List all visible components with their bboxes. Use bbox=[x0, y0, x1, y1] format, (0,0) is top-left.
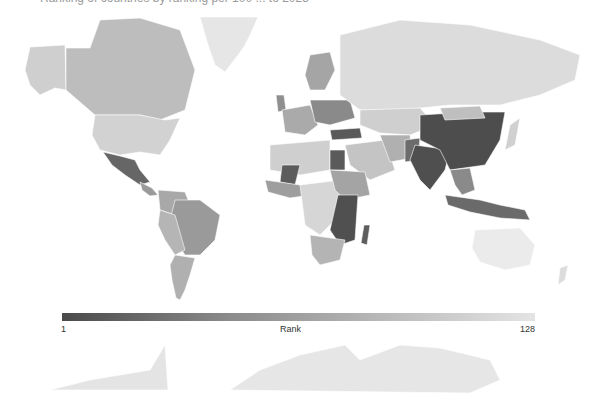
region-russia bbox=[340, 20, 580, 110]
colorbar-min-label: 1 bbox=[61, 324, 66, 334]
region-usa bbox=[92, 115, 180, 155]
region-alaska bbox=[25, 45, 66, 95]
region-egypt bbox=[330, 150, 345, 170]
region-new-zealand bbox=[558, 265, 568, 285]
region-australia bbox=[472, 228, 535, 270]
region-mali bbox=[280, 165, 300, 185]
region-mongolia bbox=[440, 106, 485, 120]
region-southern-africa bbox=[310, 235, 345, 265]
colorbar bbox=[62, 313, 535, 321]
region-southeast-asia bbox=[450, 168, 475, 195]
region-scandinavia bbox=[305, 52, 335, 90]
region-turkey bbox=[330, 128, 362, 140]
colorbar-max-label: 128 bbox=[520, 324, 535, 334]
region-canada bbox=[66, 18, 195, 120]
region-eastern-europe bbox=[310, 100, 355, 125]
region-japan bbox=[505, 118, 520, 150]
region-central-america bbox=[140, 182, 158, 196]
world-map bbox=[0, 0, 592, 403]
region-madagascar bbox=[361, 225, 370, 245]
region-antarctica-east bbox=[230, 345, 500, 393]
region-argentina-chile bbox=[170, 255, 195, 300]
region-antarctica-west bbox=[50, 345, 168, 390]
region-indonesia bbox=[445, 195, 530, 220]
region-north-africa bbox=[270, 140, 330, 175]
region-mexico bbox=[103, 152, 150, 185]
colorbar-title: Rank bbox=[280, 324, 301, 334]
region-greenland bbox=[200, 17, 258, 72]
